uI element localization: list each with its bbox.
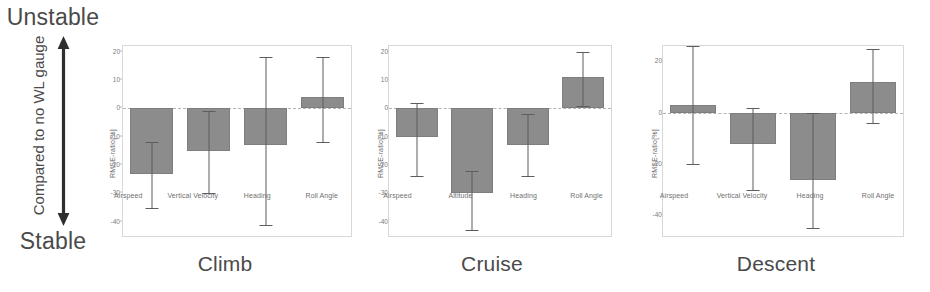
x-axis-labels-descent: AirspeedVertical VelocityHeadingRoll Ang… [640,192,912,206]
error-bar-cap [807,113,820,114]
y-axis-ticks-cruise: 20100-10-20-30-40 [370,45,388,235]
y-tick-label-descent: -20 [653,160,662,167]
x-axis-tick-label: Heading [797,192,824,199]
x-axis-tick-label: Roll Angle [305,192,338,199]
error-bar-cap [687,164,700,165]
error-bar-line [322,57,323,142]
error-bar-cap [466,230,479,231]
chart-panel-climb: RMSE-ratio[%] 20100-10-20-30-40 Airspeed… [96,0,354,292]
y-tick-label-cruise: -20 [379,161,388,168]
double-headed-vertical-arrow-icon [57,36,70,226]
error-bar-cap [259,57,272,58]
bar-group [237,46,294,236]
x-axis-tick-label: Vertical Velocity [717,192,768,199]
y-tick-label-climb: -40 [111,217,120,224]
bar-group [445,46,501,236]
y-tick-label-cruise: -40 [379,217,388,224]
x-axis-labels-climb: AirspeedVertical VelocityHeadingRoll Ang… [96,192,354,206]
panel-title-cruise: Cruise [366,252,618,276]
error-bar-cap [410,103,423,104]
error-bar-cap [747,190,760,191]
y-tick-label-descent: 20 [655,57,662,64]
stability-annotation: Unstable Compared to no WL gauge Stable [0,0,106,292]
bar-group [783,46,843,236]
error-bar-cap [687,46,700,47]
y-tick-label-cruise: 20 [381,47,388,54]
error-bar-cap [867,49,880,50]
error-bar-cap [521,114,534,115]
bar-series-descent [663,46,903,236]
bar-series-climb [123,46,351,236]
error-bar-line [813,113,814,229]
y-axis-ticks-descent: 200-20-40 [644,45,662,235]
error-bar-line [416,103,417,177]
annotation-stable-label: Stable [0,228,106,255]
figure-root: Unstable Compared to no WL gauge Stable … [0,0,930,292]
error-bar-cap [145,208,158,209]
bar-group [123,46,180,236]
error-bar-cap [807,228,820,229]
x-axis-tick-label: Roll Angle [862,192,895,199]
error-bar-cap [316,57,329,58]
plot-area-cruise [388,45,612,237]
error-bar-cap [577,106,590,107]
bar-group [723,46,783,236]
x-axis-tick-label: Airspeed [114,192,142,199]
error-bar-line [753,108,754,190]
bar-group [180,46,237,236]
y-tick-label-cruise: -10 [379,132,388,139]
bar-group [663,46,723,236]
bar-group [500,46,556,236]
annotation-axis-label: Compared to no WL gauge [30,36,47,216]
y-tick-label-climb: 20 [113,47,120,54]
y-axis-ticks-climb: 20100-10-20-30-40 [102,45,120,235]
x-axis-labels-cruise: AirspeedAltitudeHeadingRoll Angle [366,192,618,206]
error-bar-cap [202,111,215,112]
x-axis-tick-label: Airspeed [660,192,688,199]
chart-panel-cruise: RMSE-ratio[%] 20100-10-20-30-40 Airspeed… [366,0,618,292]
error-bar-cap [410,176,423,177]
x-axis-tick-label: Altitude [448,192,472,199]
error-bar-line [583,52,584,106]
y-tick-label-climb: -10 [111,132,120,139]
annotation-unstable-label: Unstable [0,4,106,31]
bar-series-cruise [389,46,611,236]
plot-area-climb [122,45,352,237]
error-bar-cap [316,142,329,143]
x-axis-tick-label: Roll Angle [570,192,603,199]
error-bar-cap [577,52,590,53]
panel-title-descent: Descent [640,252,912,276]
error-bar-line [208,111,209,193]
error-bar-line [527,114,528,176]
bar-group [389,46,445,236]
error-bar-cap [259,225,272,226]
error-bar-cap [466,171,479,172]
error-bar-cap [521,176,534,177]
panel-title-climb: Climb [96,252,354,276]
y-tick-label-climb: 10 [113,76,120,83]
x-axis-tick-label: Airspeed [383,192,411,199]
error-bar-cap [145,142,158,143]
x-axis-tick-label: Heading [510,192,537,199]
y-tick-label-climb: -20 [111,161,120,168]
error-bar-cap [747,108,760,109]
error-bar-line [693,46,694,164]
error-bar-line [873,49,874,123]
bar-group [843,46,903,236]
x-axis-tick-label: Heading [244,192,271,199]
y-tick-label-cruise: 10 [381,76,388,83]
error-bar-cap [867,123,880,124]
chart-panel-descent: RMSE-ratio[%] 200-20-40 AirspeedVertical… [640,0,912,292]
x-axis-tick-label: Vertical Velocity [167,192,218,199]
y-tick-label-descent: -40 [653,211,662,218]
bar-group [556,46,612,236]
bar-group [294,46,351,236]
plot-area-descent [662,45,904,237]
